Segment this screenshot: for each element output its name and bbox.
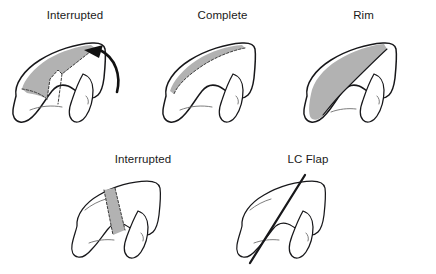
liver-drawing-interrupted-bottom bbox=[63, 170, 223, 270]
panel-label-complete: Complete bbox=[150, 10, 295, 22]
liver-resection-figure: Interrupted Complete bbox=[0, 0, 436, 274]
panel-bottom-left-interrupted: Interrupted bbox=[63, 140, 223, 274]
liver-drawing-lc-flap bbox=[228, 170, 388, 270]
panel-label-rim: Rim bbox=[291, 10, 436, 22]
liver-drawing-complete bbox=[150, 26, 295, 136]
liver-surface-detail bbox=[331, 109, 356, 112]
panel-label-interrupted-top: Interrupted bbox=[0, 10, 150, 22]
panel-top-middle-complete: Complete bbox=[150, 0, 295, 137]
liver-drawing-interrupted-top bbox=[0, 26, 150, 136]
liver-drawing-rim bbox=[291, 26, 436, 136]
panel-bottom-right-lc-flap: LC Flap bbox=[228, 140, 388, 274]
panel-label-lc-flap: LC Flap bbox=[228, 154, 388, 166]
panel-top-left-interrupted: Interrupted bbox=[0, 0, 150, 137]
panel-label-interrupted-bottom: Interrupted bbox=[63, 154, 223, 166]
panel-top-right-rim: Rim bbox=[291, 0, 436, 137]
